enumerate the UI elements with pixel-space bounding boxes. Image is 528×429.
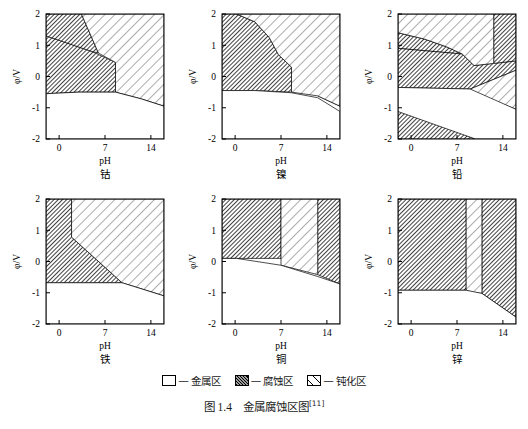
panel-svg: 210-1-20714pHφ/V铜 [176,185,352,370]
legend-entry-corrosion: —腐蚀区 [235,373,294,388]
y-tick-label: 1 [387,226,392,236]
zone-corrosion [398,199,466,290]
y-tick-label: 2 [387,194,392,204]
legend-label: 腐蚀区 [263,373,293,388]
chart-grid: 210-1-20714pHφ/V钴210-1-20714pHφ/V镍210-1-… [0,0,528,370]
x-tick-label: 0 [57,328,62,338]
legend-entry-passive: —钝化区 [307,373,366,388]
zone-group [46,14,164,139]
y-tick-label: 1 [35,226,40,236]
y-axis-title: φ/V [12,69,22,84]
y-tick-label: 0 [387,257,392,267]
panel-metal-name: 镍 [276,168,286,180]
x-tick-label: 14 [498,143,508,153]
legend-label: 金属区 [191,373,221,388]
zone-group [222,14,340,139]
x-tick-label: 0 [57,143,62,153]
y-tick-label: 1 [387,41,392,51]
chart-panel-pb: 210-1-20714pHφ/V铅 [352,0,528,185]
caption-reference: [11] [309,399,324,408]
zone-corrosion [494,14,516,63]
x-tick-label: 14 [498,328,508,338]
caption-number: 图 1.4 [204,401,232,413]
y-tick-label: -1 [208,103,216,113]
y-tick-label: 0 [387,72,392,82]
panel-svg: 210-1-20714pHφ/V铁 [0,185,176,370]
panel-metal-name: 铁 [100,353,111,365]
y-tick-label: 2 [211,9,216,19]
y-axis-title: φ/V [188,69,198,84]
chart-panel-zn: 210-1-20714pHφ/V锌 [352,185,528,370]
y-tick-label: -1 [32,103,40,113]
x-tick-label: 7 [279,328,284,338]
legend-dash: — [251,374,262,386]
x-axis-title: pH [275,156,287,166]
zone-group [222,199,340,324]
panel-svg: 210-1-20714pHφ/V铅 [352,0,528,185]
y-axis-title: φ/V [12,254,22,269]
y-tick-label: -2 [32,319,40,329]
zone-group [398,199,516,324]
x-tick-label: 0 [409,143,414,153]
x-tick-label: 14 [322,143,332,153]
y-tick-label: -2 [208,319,216,329]
y-tick-label: -2 [384,319,392,329]
y-axis-title: φ/V [188,254,198,269]
chart-panel-cu: 210-1-20714pHφ/V铜 [176,185,352,370]
chart-panel-ni: 210-1-20714pHφ/V镍 [176,0,352,185]
zone-group [398,14,516,139]
x-axis-title: pH [99,341,111,351]
x-tick-label: 0 [409,328,414,338]
y-tick-label: 2 [35,9,40,19]
legend-dash: — [178,374,189,386]
panel-svg: 210-1-20714pHφ/V钴 [0,0,176,185]
panel-metal-name: 铜 [276,353,286,365]
zone-passive [466,199,482,293]
panel-metal-name: 铅 [452,168,463,180]
y-tick-label: 2 [35,194,40,204]
zone-group [46,199,164,324]
caption-title: 金属腐蚀区图 [243,400,309,414]
x-tick-label: 14 [146,328,156,338]
x-axis-title: pH [451,341,463,351]
y-tick-label: -1 [208,288,216,298]
chart-legend: —金属区—腐蚀区—钝化区 [0,368,528,392]
x-axis-title: pH [451,156,463,166]
chart-panel-co: 210-1-20714pHφ/V钴 [0,0,176,185]
legend-swatch-passive [307,375,321,386]
panel-metal-name: 钴 [100,168,111,180]
y-tick-label: -1 [32,288,40,298]
y-tick-label: -2 [208,134,216,144]
y-tick-label: -1 [384,103,392,113]
x-tick-label: 7 [455,143,460,153]
y-tick-label: -1 [384,288,392,298]
figure-caption: 图 1.4 金属腐蚀区图[11] [0,398,528,414]
y-axis-title: φ/V [364,254,374,269]
y-tick-label: 2 [211,194,216,204]
zone-passive [281,199,318,275]
x-tick-label: 0 [233,328,238,338]
y-tick-label: 1 [35,41,40,51]
x-axis-title: pH [275,341,287,351]
legend-entry-metal: —金属区 [162,373,221,388]
y-axis-title: φ/V [364,69,374,84]
panel-metal-name: 锌 [452,353,463,365]
legend-label: 钝化区 [336,373,366,388]
y-tick-label: -2 [32,134,40,144]
y-tick-label: 2 [387,9,392,19]
y-tick-label: 0 [35,257,40,267]
x-tick-label: 0 [233,143,238,153]
panel-svg: 210-1-20714pHφ/V镍 [176,0,352,185]
chart-panel-fe: 210-1-20714pHφ/V铁 [0,185,176,370]
x-tick-label: 14 [146,143,156,153]
x-tick-label: 7 [279,143,284,153]
y-tick-label: -2 [384,134,392,144]
panel-svg: 210-1-20714pHφ/V锌 [352,185,528,370]
y-tick-label: 0 [211,257,216,267]
y-tick-label: 1 [211,41,216,51]
x-axis-title: pH [99,156,111,166]
y-tick-label: 0 [211,72,216,82]
y-tick-label: 1 [211,226,216,236]
legend-dash: — [323,374,334,386]
y-tick-label: 0 [35,72,40,82]
